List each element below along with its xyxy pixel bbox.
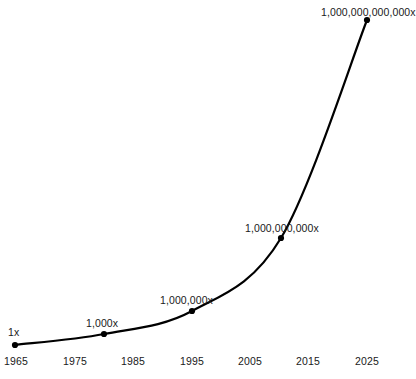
data-point-value-label: 1x	[8, 326, 19, 338]
x-axis-tick-label: 2015	[292, 355, 324, 367]
data-point-marker	[12, 342, 18, 348]
data-point-value-label: 1,000,000,000,000x	[321, 6, 416, 18]
x-axis-tick-label: 1965	[0, 355, 32, 367]
x-axis-tick-label: 1995	[176, 355, 208, 367]
x-axis-tick-label: 2025	[351, 355, 383, 367]
data-point-marker	[189, 308, 195, 314]
x-axis-tick-label: 1975	[59, 355, 91, 367]
data-point-marker	[101, 331, 107, 337]
data-point-marker	[278, 235, 284, 241]
x-axis-tick-label: 2005	[234, 355, 266, 367]
data-point-value-label: 1,000,000,000x	[245, 222, 319, 234]
data-point-value-label: 1,000,000x	[160, 294, 213, 306]
data-point-value-label: 1,000x	[86, 317, 118, 329]
x-axis-tick-label: 1985	[117, 355, 149, 367]
